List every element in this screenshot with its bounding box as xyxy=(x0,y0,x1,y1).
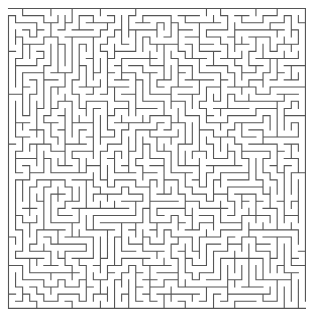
maze-walls xyxy=(9,9,306,309)
maze xyxy=(0,0,312,318)
maze-grid xyxy=(0,0,312,318)
